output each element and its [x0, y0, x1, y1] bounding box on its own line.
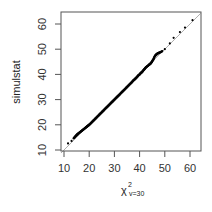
x-axis-label: χ 2 v=30	[121, 181, 144, 197]
data-point	[184, 26, 186, 28]
y-tick-label: 20	[36, 119, 48, 131]
data-point	[191, 19, 193, 21]
data-point	[179, 31, 181, 33]
data-point	[173, 37, 175, 39]
x-tick-label: 60	[184, 162, 196, 174]
x-axis: 102030405060	[58, 151, 196, 174]
y-tick-label: 30	[36, 93, 48, 105]
y-tick-label: 10	[36, 144, 48, 156]
data-point	[161, 50, 163, 52]
data-points	[67, 19, 194, 144]
y-axis: 102030405060	[36, 18, 61, 156]
y-tick-label: 40	[36, 68, 48, 80]
data-point	[67, 142, 69, 144]
x-tick-label: 10	[58, 162, 70, 174]
qq-plot: 102030405060 102030405060 simulstat χ 2 …	[0, 0, 212, 212]
y-tick-label: 60	[36, 18, 48, 30]
x-tick-label: 40	[133, 162, 145, 174]
x-axis-label-superscript: 2	[128, 181, 132, 188]
x-tick-label: 20	[83, 162, 95, 174]
y-tick-label: 50	[36, 43, 48, 55]
x-tick-label: 30	[108, 162, 120, 174]
data-point	[169, 42, 171, 44]
x-axis-label-subscript: v=30	[129, 190, 144, 197]
x-tick-label: 50	[159, 162, 171, 174]
data-point	[70, 140, 72, 142]
y-axis-label: simulstat	[10, 60, 22, 103]
x-axis-label-main: χ	[121, 184, 127, 196]
data-point	[164, 48, 166, 50]
